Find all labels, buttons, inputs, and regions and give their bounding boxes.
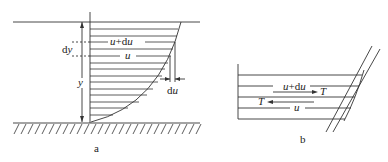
velocity-profile-diagram: dy y u+du u du a u+du T T u b <box>0 0 388 162</box>
b-upper-T-label: T <box>320 85 327 97</box>
figure-b-caption: b <box>300 133 306 145</box>
tangent-line-2 <box>333 49 380 132</box>
velocity-profile-curve <box>91 22 181 122</box>
b-u-label: u <box>294 101 300 113</box>
b-u-plus-du-label: u+du <box>283 80 306 92</box>
dy-label: dy <box>62 43 73 55</box>
figure-b <box>238 46 380 132</box>
figure-a-caption: a <box>94 142 99 154</box>
wall-hatching <box>14 124 201 134</box>
u-label: u <box>125 49 131 61</box>
du-label: du <box>167 84 179 96</box>
u-plus-du-label: u+du <box>110 35 133 47</box>
velocity-lines <box>90 29 178 115</box>
tangent-line-1 <box>326 46 372 132</box>
b-lower-T-label: T <box>258 95 265 107</box>
y-label: y <box>77 76 83 88</box>
figure-a <box>13 12 201 134</box>
